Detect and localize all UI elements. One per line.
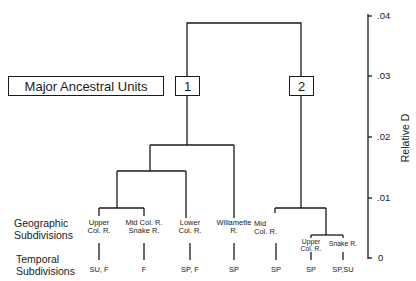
axis-tick-label: .04 — [377, 10, 390, 21]
leaf-temporal-label: SP, F — [170, 266, 210, 274]
dendrogram: Major Ancestral Units 1 2 Geographic Sub… — [0, 0, 416, 281]
geographic-row-label: Geographic Subdivisions — [14, 217, 73, 241]
leaf-geo-label: Mid Col. R. — [254, 220, 294, 236]
leaf-temporal-label: F — [124, 266, 164, 274]
leaf-temporal-label: SP — [214, 266, 254, 274]
leaf-temporal-label: SU, F — [79, 266, 119, 274]
axis-tick-label: .02 — [377, 131, 390, 142]
leaf-geo-label: Lower Col. R. — [165, 219, 215, 235]
leaf-temporal-label: SP — [256, 266, 296, 274]
axis-tick-label: 0 — [378, 252, 383, 263]
leaf-geo-label: Mid Col. R. Snake R. — [119, 219, 169, 235]
leaf-geo-label: Snake R. — [323, 240, 363, 247]
unit-2-box: 2 — [289, 76, 314, 96]
axis-tick-label: .01 — [377, 192, 390, 203]
root-join — [187, 23, 301, 76]
leaf-geo-label: Upper Col. R. — [74, 219, 124, 235]
temporal-row-label: Temporal Subdivisions — [16, 253, 75, 277]
major-ancestral-units-box: Major Ancestral Units — [8, 76, 164, 96]
unit-1-box: 1 — [175, 76, 200, 96]
axis-title: Relative D — [399, 108, 411, 168]
leaf-temporal-label: SP,SU — [323, 266, 363, 274]
axis-tick-label: .03 — [377, 70, 390, 81]
leaf-geo-label: Willamette R. — [209, 219, 259, 235]
